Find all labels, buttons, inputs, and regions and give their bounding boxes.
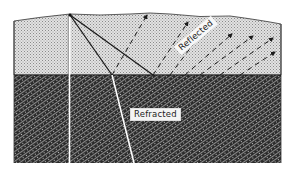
upper-layer	[14, 13, 281, 75]
source-point	[68, 13, 71, 16]
refracted-label: Refracted	[130, 108, 181, 121]
refraction-reflection-diagram	[0, 0, 294, 171]
